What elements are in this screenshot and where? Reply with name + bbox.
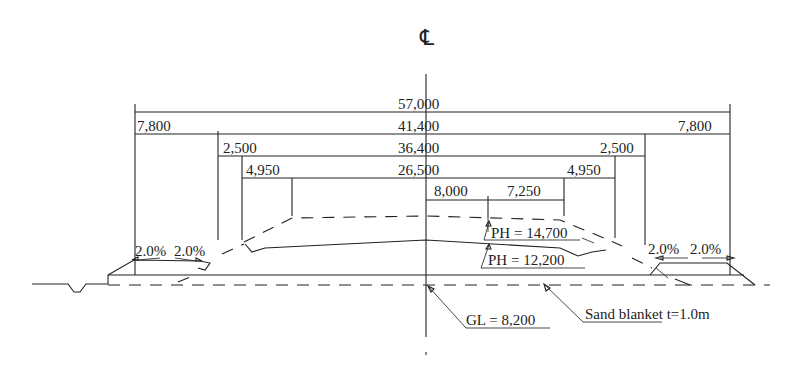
dim-pavement: 4,950 26,500 4,950 <box>242 162 615 216</box>
dim-total-label: 57,000 <box>398 96 439 112</box>
cross-section-diagram: ℄ 57,000 7,800 41,400 7,800 2,500 36,400… <box>0 0 793 366</box>
dim-shoulder-left-label: 2,500 <box>223 140 257 156</box>
dim-offset-a-label: 8,000 <box>434 183 468 199</box>
dim-outer-right-label: 7,800 <box>678 118 712 134</box>
dim-offset-b-label: 7,250 <box>507 183 541 199</box>
left-slope-tick <box>178 277 190 282</box>
dim-shoulder-right-label: 2,500 <box>600 140 634 156</box>
left-slope-dash <box>222 244 244 254</box>
dim-offsets: 8,000 7,250 <box>426 183 564 218</box>
slope-left-1: 2.0% <box>135 243 166 259</box>
left-berm: 2.0% 2.0% <box>108 243 210 275</box>
dim-carriage: 2,500 36,400 2,500 <box>218 140 645 240</box>
slope-right-2: 2.0% <box>690 241 721 257</box>
dim-inner-label: 41,400 <box>398 118 439 134</box>
ph-upper-label: PH = 14,700 <box>491 225 567 241</box>
ph-lower-label: PH = 12,200 <box>488 252 564 268</box>
dim-outer-left-label: 7,800 <box>137 118 171 134</box>
slope-right-1: 2.0% <box>648 241 679 257</box>
gl-callout: GL = 8,200 <box>428 286 550 328</box>
centerline-symbol: ℄ <box>419 25 435 50</box>
right-berm: 2.0% 2.0% <box>648 241 755 285</box>
dim-inner: 7,800 41,400 7,800 <box>135 118 730 245</box>
dim-lane-left-label: 4,950 <box>246 162 280 178</box>
ph-upper-callout: PH = 14,700 <box>484 218 594 243</box>
dim-lane-right-label: 4,950 <box>567 162 601 178</box>
sand-blanket-label: Sand blanket t=1.0m <box>585 306 710 322</box>
right-slope-dash <box>632 258 652 268</box>
dim-pavement-label: 26,500 <box>398 162 439 178</box>
dim-carriage-label: 36,400 <box>398 140 439 156</box>
slope-left-2: 2.0% <box>174 243 205 259</box>
gl-label: GL = 8,200 <box>466 312 535 328</box>
ground-line-left <box>32 275 108 292</box>
ph-lower-callout: PH = 12,200 <box>481 244 585 268</box>
sand-blanket-callout: Sand blanket t=1.0m <box>544 284 710 322</box>
right-blanket-tick <box>675 279 690 285</box>
